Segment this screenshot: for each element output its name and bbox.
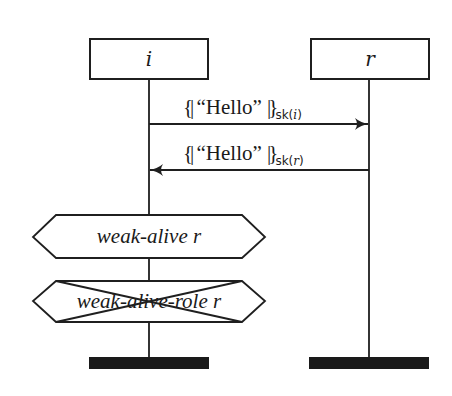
sequence-diagram: i r {| “Hello” |}sk(i) {| “Hello” |}sk(r…	[0, 0, 452, 396]
open-bracket: {|	[183, 141, 191, 165]
role-box-r: r	[310, 38, 430, 80]
terminator-bar-i	[89, 357, 209, 369]
claim-label-2: weak-alive-role r	[33, 291, 265, 312]
role-box-i: i	[89, 38, 209, 80]
message-payload: “Hello”	[197, 95, 262, 119]
key-subscript: sk(i)	[275, 108, 301, 122]
role-label-i: i	[146, 47, 152, 71]
open-bracket: {|	[183, 95, 191, 119]
message-payload: “Hello”	[197, 141, 262, 165]
key-subscript: sk(r)	[275, 154, 303, 168]
terminator-bar-r	[309, 357, 429, 369]
message-label-2: {| “Hello” |}sk(r)	[183, 143, 304, 164]
role-label-r: r	[365, 47, 375, 71]
message-label-1: {| “Hello” |}sk(i)	[183, 97, 302, 118]
claim-label-1: weak-alive r	[33, 226, 265, 247]
